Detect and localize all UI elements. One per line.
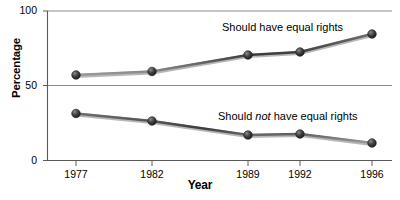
data-point (148, 67, 157, 76)
series-label-text-prefix: Should (218, 110, 255, 122)
data-point (72, 71, 81, 80)
chart-container: 100 50 0 1977 1982 1989 1992 1996 Percen… (0, 0, 400, 200)
series-label-should-not-have-equal-rights: Should not have equal rights (218, 110, 357, 122)
data-point (296, 48, 305, 57)
series-label-should-have-equal-rights: Should have equal rights (222, 21, 343, 33)
series-label-text-suffix: have equal rights (271, 110, 358, 122)
data-point (72, 109, 81, 118)
series-label-text-emphasis: not (255, 110, 270, 122)
series-line-should-have-equal-rights (76, 34, 372, 76)
x-axis-title: Year (0, 178, 400, 192)
data-point (296, 130, 305, 139)
data-point (368, 139, 377, 148)
y-tick-label-100: 100 (3, 4, 37, 16)
data-point (148, 117, 157, 126)
x-tick-marks (76, 161, 372, 167)
data-point (368, 30, 377, 39)
series-label-text: Should have equal rights (222, 21, 343, 33)
y-tick-label-0: 0 (3, 154, 37, 166)
data-point (244, 51, 253, 60)
data-point (244, 131, 253, 140)
y-tick-marks (43, 11, 48, 161)
y-axis-title: Percentage (10, 28, 22, 108)
